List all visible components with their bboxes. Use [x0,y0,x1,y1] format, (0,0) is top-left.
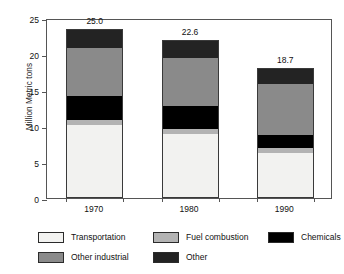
x-tick-mark [162,198,163,202]
bar-segment[interactable] [258,153,313,197]
legend-label: Chemicals [301,232,341,242]
y-tick-label: 20 [30,51,39,61]
bar-total-label: 25.0 [86,16,103,26]
bar-total-label: 18.7 [277,55,294,65]
y-tick-label: 10 [30,123,39,133]
bar-total-label: 22.6 [182,27,199,37]
y-tick-label: 5 [34,159,39,169]
legend-row: Other industrialOther [38,247,338,267]
legend-swatch [38,252,64,263]
bar-group: 25.0 [66,18,123,198]
legend-item[interactable]: Fuel combustion [153,227,248,247]
legend-swatch [268,232,294,243]
bar-group: 22.6 [162,18,219,198]
y-tick-label: 0 [34,195,39,205]
x-tick-mark [314,198,315,202]
legend-label: Fuel combustion [186,232,248,242]
bar-segment[interactable] [163,58,218,106]
legend-item[interactable]: Transportation [38,227,126,247]
y-tick-mark [42,200,47,201]
bar-segment[interactable] [258,135,313,148]
chart-legend: TransportationFuel combustionChemicalsOt… [38,227,338,267]
y-tick-label: 15 [30,87,39,97]
bar-stack-1980[interactable] [162,40,219,198]
legend-label: Other [186,252,207,262]
bar-segment[interactable] [67,96,122,120]
x-tick-mark [219,198,220,202]
stacked-bar-chart: Million Metric tons 0510152025 25.022.61… [0,0,344,274]
bars-layer: 25.022.618.7 [47,20,331,198]
x-tick-mark [123,198,124,202]
legend-swatch [153,252,179,263]
legend-row: TransportationFuel combustionChemicals [38,227,338,247]
bar-segment[interactable] [67,125,122,197]
legend-label: Other industrial [71,252,129,262]
x-axis-label-1980: 1980 [180,204,199,214]
bar-segment[interactable] [163,106,218,129]
x-axis-label-1970: 1970 [84,204,103,214]
x-tick-mark [257,198,258,202]
bar-segment[interactable] [258,69,313,84]
legend-item[interactable]: Other [153,247,207,267]
bar-stack-1970[interactable] [66,29,123,198]
legend-swatch [153,232,179,243]
bar-segment[interactable] [163,41,218,58]
legend-label: Transportation [71,232,126,242]
legend-swatch [38,232,64,243]
bar-group: 18.7 [257,18,314,198]
x-axis-label-1990: 1990 [275,204,294,214]
bar-stack-1990[interactable] [257,68,314,198]
legend-item[interactable]: Chemicals [268,227,341,247]
plot-area: 0510152025 25.022.618.7 [46,19,332,199]
y-axis-title: Million Metric tons [25,12,34,182]
bar-segment[interactable] [258,84,313,135]
x-tick-mark [66,198,67,202]
bar-segment[interactable] [67,30,122,48]
y-tick-label: 25 [30,15,39,25]
bar-segment[interactable] [163,134,218,197]
bar-segment[interactable] [67,48,122,96]
legend-item[interactable]: Other industrial [38,247,129,267]
